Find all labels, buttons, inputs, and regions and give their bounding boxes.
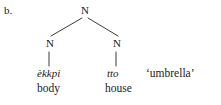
example-label: b. (4, 4, 12, 16)
terminal-gloss-right: house (105, 82, 132, 95)
terminal-form-right: tto (107, 67, 119, 80)
terminal-form-left: èkkpi (37, 67, 60, 80)
syntax-tree-figure: b. N N N èkkpi body tto house ‘umbrella’ (0, 0, 221, 105)
terminal-gloss-left: body (37, 82, 60, 95)
branch-root-to-left (51, 18, 82, 36)
branch-root-to-right (88, 18, 118, 36)
tree-node-left: N (40, 37, 60, 49)
tree-node-right: N (107, 37, 127, 49)
tree-node-root: N (75, 4, 95, 16)
translation-gloss: ‘umbrella’ (146, 67, 195, 80)
